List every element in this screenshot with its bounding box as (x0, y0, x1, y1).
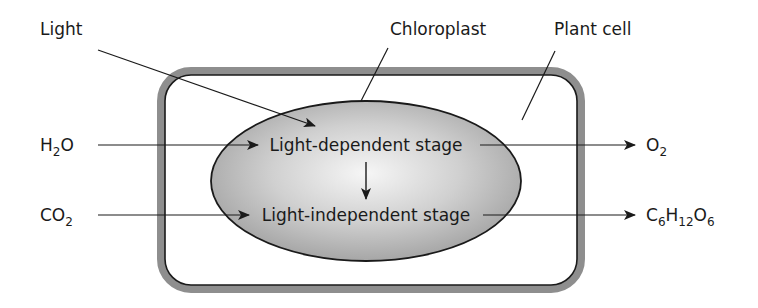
plant-cell-label: Plant cell (554, 19, 632, 39)
water-formula: H2O (40, 135, 74, 159)
chloroplast-label: Chloroplast (390, 19, 487, 39)
glucose-formula: C6H12O6 (646, 205, 715, 229)
light-dependent-stage-label: Light-dependent stage (269, 135, 462, 155)
light-label: Light (40, 19, 83, 39)
light-independent-stage-label: Light-independent stage (262, 205, 471, 225)
oxygen-formula: O2 (646, 135, 667, 159)
carbon-dioxide-formula: CO2 (40, 205, 73, 229)
photosynthesis-diagram: Light Chloroplast Plant cell Light-depen… (0, 0, 758, 308)
